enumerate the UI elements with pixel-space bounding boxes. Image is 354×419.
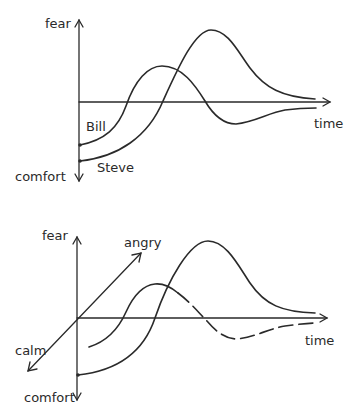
curve-1-dashed [178,293,316,339]
diagram-canvas: fear comfort time Bill Steve fear angry … [0,0,354,419]
angry-label: angry [124,235,162,250]
curve-bill [80,66,316,145]
bill-label: Bill [86,119,106,134]
comfort-label: comfort [24,390,75,405]
comfort-label: comfort [15,169,66,184]
curve-2-start-dot [76,373,80,377]
fear-label: fear [45,16,72,31]
curve-steve [80,30,315,161]
steve-start-dot [78,159,82,163]
bill-start-dot [78,143,82,147]
fear-label: fear [42,228,69,243]
time-label: time [314,116,343,131]
steve-label: Steve [97,160,134,175]
time-label: time [305,333,334,348]
bottom-diagram: fear angry calm comfort time [15,228,334,405]
curve-2 [78,241,315,375]
top-diagram: fear comfort time Bill Steve [15,16,343,184]
calm-label: calm [15,343,46,358]
